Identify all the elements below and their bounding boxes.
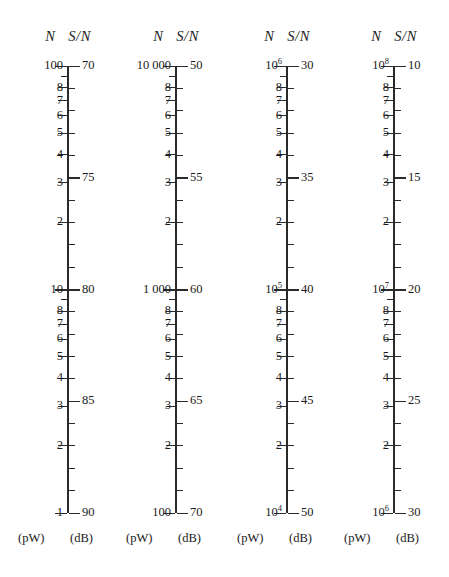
- axis-label-n-minor: 6: [383, 109, 389, 122]
- axis-tick-right-major: [177, 401, 188, 403]
- axis-label-n-minor: 2: [383, 439, 389, 452]
- axis-label-n-minor: 4: [276, 148, 282, 161]
- axis-label-n-minor: 8: [165, 81, 171, 94]
- axis-label-db: 60: [190, 283, 203, 296]
- axis-label-n-minor: 5: [165, 126, 171, 139]
- axis-tick-left-tiny: [387, 76, 393, 77]
- axis-tick-right-tiny: [69, 378, 75, 379]
- axis-tick-right-major: [288, 513, 299, 515]
- unit-label-right: (dB): [289, 532, 312, 545]
- axis-tick-right-tiny: [395, 468, 401, 469]
- axis-label-db: 70: [190, 506, 203, 519]
- axis-tick-right-major: [177, 66, 188, 68]
- column-header: NS/N: [120, 28, 232, 45]
- axis-label-n-minor: 6: [165, 109, 171, 122]
- axis-label-n-minor: 6: [57, 332, 63, 345]
- axis-label-n-minor: 2: [57, 215, 63, 228]
- axis-tick-right-tiny: [395, 155, 401, 156]
- axis-tick-right-major: [395, 177, 406, 179]
- axis-tick-right-tiny: [177, 378, 183, 379]
- axis-label-n-minor: 3: [383, 176, 389, 189]
- axis-tick-right-tiny: [69, 423, 75, 424]
- axis-tick-left-tiny: [280, 76, 286, 77]
- axis-tick-right-tiny: [177, 356, 183, 357]
- axis-label-n-minor: 6: [276, 332, 282, 345]
- axis-label-n-minor: 2: [57, 439, 63, 452]
- axis-tick-right-tiny: [395, 311, 401, 312]
- axis-tick-right-major: [288, 66, 299, 68]
- axis-tick-left-tiny: [280, 299, 286, 300]
- axis-tick-right-tiny: [288, 222, 294, 223]
- axis-tick-right-tiny: [177, 200, 183, 201]
- axis-tick-right-tiny: [288, 311, 294, 312]
- header-symbol-sn: S/N: [394, 28, 416, 44]
- axis-label-n: 100: [152, 506, 171, 519]
- unit-label-left: (pW): [126, 532, 152, 545]
- axis-label-n-minor: 2: [165, 215, 171, 228]
- axis-tick-right-tiny: [288, 468, 294, 469]
- axis-label-db: 65: [190, 394, 203, 407]
- axis-label-db: 85: [82, 394, 95, 407]
- axis-label-n-minor: 7: [276, 94, 282, 107]
- axis-tick-right-tiny: [177, 468, 183, 469]
- axis-tick-right-tiny: [177, 88, 183, 89]
- axis-label-n: 106: [265, 59, 282, 72]
- axis-tick-left-tiny: [61, 299, 67, 300]
- axis-tick-right-major: [69, 177, 80, 179]
- axis-label-db: 20: [408, 283, 421, 296]
- axis-tick-right-tiny: [288, 133, 294, 134]
- axis-label-n-minor: 3: [276, 176, 282, 189]
- header-symbol-sn: S/N: [287, 28, 309, 44]
- axis-label-n-minor: 2: [276, 439, 282, 452]
- axis-label-db: 50: [301, 506, 314, 519]
- axis-tick-right-tiny: [69, 244, 75, 245]
- axis-label-db: 40: [301, 283, 314, 296]
- axis-label-n-minor: 8: [57, 304, 63, 317]
- axis-label-db: 90: [82, 506, 95, 519]
- axis-tick-right-tiny: [288, 356, 294, 357]
- scale-column: NS/N106876543210587654321043035404550(pW…: [231, 0, 343, 577]
- axis-tick-right-tiny: [69, 490, 75, 491]
- axis-tick-right-tiny: [177, 445, 183, 446]
- axis-label-n-minor: 7: [383, 317, 389, 330]
- scale-column: NS/N108876543210787654321061015202530(pW…: [338, 0, 449, 577]
- axis-label-n-minor: 8: [383, 81, 389, 94]
- axis-label-n-minor: 4: [165, 371, 171, 384]
- axis-tick-right-tiny: [177, 423, 183, 424]
- axis-tick-right-major: [69, 66, 80, 68]
- axis-tick-right-tiny: [69, 356, 75, 357]
- axis-label-n: 105: [265, 283, 282, 296]
- axis-tick-right-tiny: [69, 445, 75, 446]
- axis-tick-right-major: [288, 401, 299, 403]
- axis-label-n-minor: 3: [57, 176, 63, 189]
- axis-tick-right-major: [177, 289, 188, 291]
- axis-tick-right-tiny: [69, 155, 75, 156]
- axis-tick-right-tiny: [395, 88, 401, 89]
- axis-label-db: 45: [301, 394, 314, 407]
- axis-tick-right-tiny: [177, 490, 183, 491]
- axis-label-n-minor: 5: [57, 350, 63, 363]
- axis-label-n-minor: 7: [165, 317, 171, 330]
- axis-tick-right-tiny: [177, 155, 183, 156]
- axis-label-n: 100: [44, 59, 63, 72]
- axis-tick-right-tiny: [288, 378, 294, 379]
- axis-tick-right-tiny: [395, 490, 401, 491]
- axis-label-n-minor: 4: [165, 148, 171, 161]
- axis-label-n-minor: 4: [383, 148, 389, 161]
- axis-label-db: 75: [82, 171, 95, 184]
- axis-tick-right-tiny: [288, 110, 294, 111]
- axis-tick-right-tiny: [69, 88, 75, 89]
- axis-tick-right-tiny: [395, 133, 401, 134]
- axis-label-n-minor: 5: [276, 126, 282, 139]
- axis-tick-right-tiny: [395, 423, 401, 424]
- axis-label-db: 80: [82, 283, 95, 296]
- axis-tick-right-major: [177, 177, 188, 179]
- axis-label-db: 55: [190, 171, 203, 184]
- axis-label-n-minor: 3: [57, 399, 63, 412]
- axis-label-n-minor: 4: [383, 371, 389, 384]
- axis-label-n-minor: 7: [57, 317, 63, 330]
- axis-label-db: 25: [408, 394, 421, 407]
- axis-label-n-minor: 3: [165, 399, 171, 412]
- axis-label-n-minor: 8: [383, 304, 389, 317]
- axis-tick-right-tiny: [177, 133, 183, 134]
